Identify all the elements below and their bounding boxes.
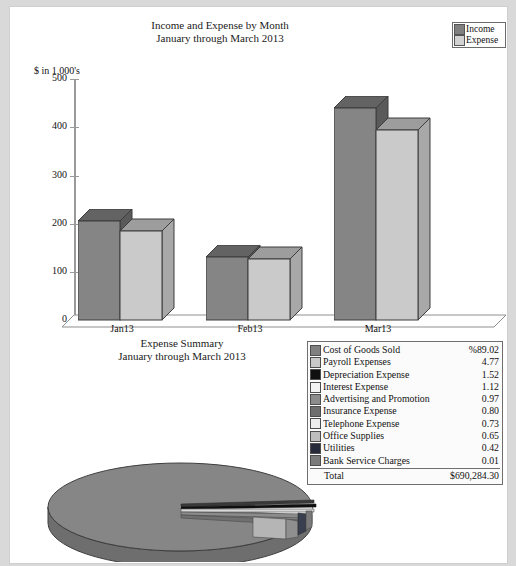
- bar-front-income-feb13: [206, 257, 248, 320]
- table-row: Cost of Goods Sold %89.02: [310, 344, 500, 356]
- bar-chart-legend: Income Expense: [452, 22, 506, 48]
- legend-swatch-income: [454, 24, 465, 35]
- table-row: Payroll Expenses 4.77: [310, 356, 500, 368]
- category-label-jan13: Jan13: [80, 323, 164, 334]
- bar-front-income-jan13: [78, 221, 120, 320]
- row-label: Depreciation Expense: [323, 369, 482, 381]
- y-tick-400: [70, 127, 79, 128]
- bar-front-expense-feb13: [248, 259, 290, 320]
- row-value: 0.73: [482, 418, 500, 430]
- pie-slice-bank-service-charges: [306, 511, 312, 530]
- row-value: 0.01: [482, 455, 500, 467]
- y-label-200: 200: [37, 217, 67, 228]
- bar-group-mar13: [334, 96, 454, 336]
- row-label: Cost of Goods Sold: [323, 344, 469, 356]
- y-label-500: 500: [37, 72, 67, 83]
- row-label: Telephone Expense: [323, 418, 482, 430]
- row-value: 0.65: [482, 430, 500, 442]
- total-value: $690,284.30: [450, 470, 500, 483]
- row-value: 1.12: [482, 381, 500, 393]
- table-row: Office Supplies 0.65: [310, 430, 500, 442]
- row-value: 0.80: [482, 405, 500, 417]
- swatch-telephone-expense: [310, 418, 321, 429]
- y-axis-line: [74, 79, 76, 320]
- bar-side-expense-mar13: [418, 118, 430, 320]
- row-value: %89.02: [469, 344, 500, 356]
- row-label: Payroll Expenses: [323, 356, 482, 368]
- pie-slice-telephone-expense: [253, 517, 286, 539]
- row-value: 0.97: [482, 393, 500, 405]
- bar-chart-title-line1: Income and Expense by Month: [10, 19, 430, 32]
- table-row: Interest Expense 1.12: [310, 381, 500, 393]
- pie-chart-title-line1: Expense Summary: [62, 337, 302, 350]
- bar-side-expense-feb13: [290, 247, 302, 320]
- row-label: Bank Service Charges: [323, 455, 482, 467]
- y-label-400: 400: [37, 120, 67, 131]
- category-label-mar13: Mar13: [336, 323, 420, 334]
- table-row: Bank Service Charges 0.01: [310, 455, 500, 467]
- table-row: Utilities 0.42: [310, 442, 500, 454]
- legend-label-income: Income: [466, 24, 495, 35]
- y-label-100: 100: [37, 265, 67, 276]
- expense-summary-table: Cost of Goods Sold %89.02 Payroll Expens…: [307, 341, 503, 485]
- row-label: Insurance Expense: [323, 405, 482, 417]
- y-tick-500: [70, 79, 79, 80]
- bar-front-expense-jan13: [120, 231, 162, 320]
- pie-chart-title-line2: January through March 2013: [62, 350, 302, 363]
- bar-chart-title: Income and Expense by Month January thro…: [10, 19, 430, 45]
- row-value: 4.77: [482, 356, 500, 368]
- bar-front-income-mar13: [334, 108, 376, 320]
- bar-group-jan13: [78, 209, 198, 339]
- swatch-utilities: [310, 443, 321, 454]
- table-row: Telephone Expense 0.73: [310, 418, 500, 430]
- row-label: Office Supplies: [323, 430, 482, 442]
- table-total-row: Total $690,284.30: [310, 468, 500, 483]
- swatch-insurance-expense: [310, 406, 321, 417]
- legend-label-expense: Expense: [466, 35, 498, 46]
- legend-swatch-expense: [454, 35, 465, 46]
- swatch-interest-expense: [310, 382, 321, 393]
- pie-chart: [40, 457, 320, 562]
- bar-chart-title-line2: January through March 2013: [10, 32, 430, 45]
- table-row: Insurance Expense 0.80: [310, 405, 500, 417]
- pie-slice-office-supplies: [286, 519, 298, 539]
- pie-chart-title: Expense Summary January through March 20…: [62, 337, 302, 363]
- category-label-feb13: Feb13: [208, 323, 292, 334]
- pie-chart-svg: [40, 457, 320, 562]
- row-label: Utilities: [323, 442, 482, 454]
- table-row: Depreciation Expense 1.52: [310, 369, 500, 381]
- y-label-300: 300: [37, 169, 67, 180]
- legend-item-income: Income: [454, 24, 504, 35]
- swatch-cost-of-goods-sold: [310, 345, 321, 356]
- row-value: 1.52: [482, 369, 500, 381]
- pie-slice-utilities: [298, 513, 306, 535]
- legend-item-expense: Expense: [454, 35, 504, 46]
- pie-slice-interest-expense: [181, 509, 314, 512]
- bar-front-expense-mar13: [376, 130, 418, 320]
- swatch-depreciation-expense: [310, 369, 321, 380]
- row-label: Interest Expense: [323, 381, 482, 393]
- swatch-payroll-expenses: [310, 357, 321, 368]
- swatch-advertising-and-promotion: [310, 394, 321, 405]
- total-label: Total: [310, 470, 450, 483]
- row-label: Advertising and Promotion: [323, 393, 482, 405]
- swatch-office-supplies: [310, 431, 321, 442]
- y-tick-300: [70, 176, 79, 177]
- swatch-bank-service-charges: [310, 455, 321, 466]
- bar-chart: Income and Expense by Month January thro…: [10, 7, 507, 332]
- bar-side-expense-jan13: [162, 219, 174, 320]
- report-page: Income and Expense by Month January thro…: [10, 7, 507, 563]
- table-row: Advertising and Promotion 0.97: [310, 393, 500, 405]
- row-value: 0.42: [482, 442, 500, 454]
